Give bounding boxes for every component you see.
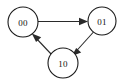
state-node-01-label: 01 — [97, 17, 106, 27]
edge-00-to-01 — [38, 18, 88, 25]
edge-01-to-10 — [72, 32, 94, 56]
edge-10-to-00-arrowhead — [32, 34, 41, 42]
edge-00-to-01-arrowhead — [79, 18, 88, 25]
state-diagram-canvas: 00 01 10 — [0, 0, 120, 84]
state-node-10[interactable]: 10 — [48, 48, 78, 78]
state-graph: 00 01 10 — [0, 0, 120, 84]
state-node-00-label: 00 — [18, 18, 28, 28]
state-node-00[interactable]: 00 — [8, 7, 38, 37]
state-node-10-label: 10 — [58, 59, 68, 69]
edge-10-to-00 — [32, 34, 52, 55]
state-node-01[interactable]: 01 — [88, 7, 116, 35]
